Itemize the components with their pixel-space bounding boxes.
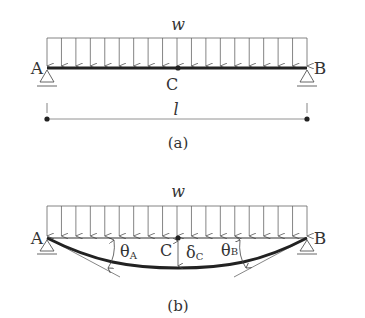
support-label-b-left: A <box>30 228 44 248</box>
dim-dot-left <box>44 116 49 121</box>
deflected-beam-curve <box>47 238 307 268</box>
figure-b: w A B <box>30 182 326 315</box>
support-label-b-right: B <box>314 228 327 248</box>
support-label-a-left: A <box>30 58 44 78</box>
midpoint-label-a: C <box>166 75 178 94</box>
midpoint-dot-b <box>175 235 180 240</box>
figure-a: w A B C l (a) <box>30 15 326 152</box>
theta-b-label: θB <box>221 241 238 260</box>
distributed-load-arrows-b <box>47 206 307 236</box>
midpoint-dot-a <box>175 65 180 70</box>
diagram-stage: w A B C l (a) <box>0 0 365 318</box>
load-label-b: w <box>171 182 185 201</box>
caption-b: (b) <box>167 297 188 315</box>
delta-c-label: δC <box>186 243 204 262</box>
dim-dot-right <box>304 116 309 121</box>
beam-diagram: w A B C l (a) <box>0 0 365 318</box>
load-label-a: w <box>171 15 185 34</box>
midpoint-label-b: C <box>160 241 172 260</box>
caption-a: (a) <box>168 134 189 152</box>
theta-a-label: θA <box>120 242 138 261</box>
support-label-a-right: B <box>314 58 327 78</box>
distributed-load-arrows-a <box>47 38 307 66</box>
slope-arrow-left <box>108 240 114 268</box>
span-label: l <box>173 100 178 119</box>
